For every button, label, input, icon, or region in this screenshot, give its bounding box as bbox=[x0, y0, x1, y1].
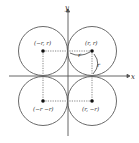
x-axis-arrow-icon bbox=[127, 74, 130, 77]
point-upper-right bbox=[90, 49, 94, 53]
x-axis-label: x bbox=[131, 73, 135, 81]
point-lower-right bbox=[90, 99, 94, 103]
label-upper-right: (r, r) bbox=[85, 40, 97, 46]
radius-label-vertical: r bbox=[97, 61, 101, 68]
label-lower-left: (−r −r) bbox=[33, 106, 54, 112]
radius-label-horizontal: r bbox=[78, 51, 82, 58]
label-lower-right: (r, −r) bbox=[82, 106, 99, 112]
four-circles-diagram: x y (−r, r) (r, r) (−r −r) (r, −r) r r bbox=[0, 0, 139, 143]
point-lower-left bbox=[41, 99, 45, 103]
label-upper-left: (−r, r) bbox=[34, 40, 51, 46]
point-upper-left bbox=[41, 49, 45, 53]
